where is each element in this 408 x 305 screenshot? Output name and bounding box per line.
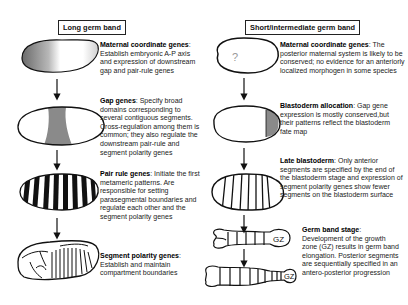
right-stage-2-title: Blastoderm allocation — [280, 102, 353, 109]
pair-rule-embryo — [20, 172, 98, 212]
unknown-morphogen-label: ? — [232, 51, 238, 63]
segment-polarity-embryo — [18, 241, 99, 280]
gz-label-1: GZ — [273, 235, 284, 244]
left-stage-2-title: Gap genes — [100, 97, 136, 104]
left-stage-3-text: Pair rule genes: Initiate the first meta… — [100, 170, 200, 222]
blastoderm-embryo — [214, 106, 280, 142]
left-stage-4-text: Segment polarity genes: Establish and ma… — [100, 252, 182, 278]
late-blastoderm-embryo — [212, 172, 283, 212]
right-stage-4-text: Germ band stage: Development of the grow… — [302, 226, 402, 278]
right-stage-3-text: Late blastoderm: Only anterior segments … — [280, 157, 404, 200]
right-stage-4-desc: : Development of the growth zone (GZ) re… — [302, 226, 399, 276]
right-stage-4-title: Germ band stage — [302, 226, 359, 233]
left-stage-1-title: Maternal coordinate genes — [100, 41, 189, 48]
right-stage-3-title: Late blastoderm — [280, 157, 334, 164]
gap-embryo — [18, 107, 104, 145]
germ-band-embryo-elongated: GZ — [205, 266, 296, 286]
germ-band-embryo-early: GZ — [214, 229, 290, 248]
right-stage-2-text: Blastoderm allocation: Gap gene expressi… — [280, 102, 392, 136]
left-stage-3-title: Pair rule genes — [100, 170, 150, 177]
left-stage-1-text: Maternal coordinate genes: Establish emb… — [100, 41, 198, 75]
left-stage-2-desc: : Specify broad domains corresponding to… — [100, 97, 199, 156]
gz-label-2: GZ — [284, 272, 295, 281]
left-stage-2-text: Gap genes: Specify broad domains corresp… — [100, 97, 204, 157]
maternal-embryo-right: ? — [217, 38, 278, 73]
maternal-embryo-left — [22, 40, 98, 72]
left-stage-4-title: Segment polarity genes — [100, 252, 179, 259]
left-stage-3-desc: : Initiate the first metameric patterns.… — [100, 170, 200, 220]
right-stage-1-text: Maternal coordinate genes: The posterior… — [280, 41, 406, 75]
right-stage-1-title: Maternal coordinate genes — [280, 41, 369, 48]
